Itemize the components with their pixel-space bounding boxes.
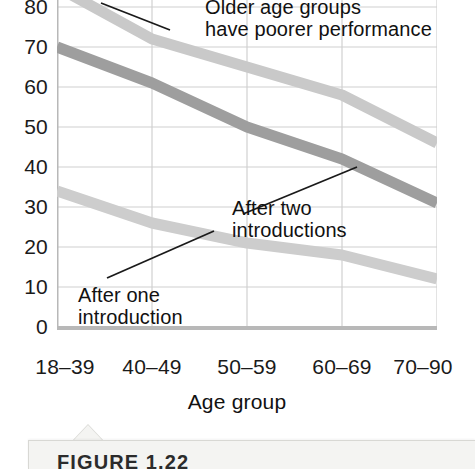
x-axis-tick-4: 70–90 — [393, 355, 452, 379]
annotation-after-two-introductions: After two introductions — [232, 197, 347, 242]
y-axis-tick-70: 70 — [24, 35, 48, 59]
y-axis-tick-50: 50 — [24, 115, 48, 139]
figure-caption-card: FIGURE 1.22 — [28, 440, 475, 469]
y-axis-tick-10: 10 — [24, 275, 48, 299]
y-axis-tick-0: 0 — [36, 315, 48, 339]
x-axis-title: Age group — [0, 390, 474, 414]
y-axis-tick-20: 20 — [24, 235, 48, 259]
x-axis-tick-2: 50–59 — [217, 355, 276, 379]
y-axis-tick-30: 30 — [24, 195, 48, 219]
y-axis-tick-40: 40 — [24, 155, 48, 179]
x-axis-tick-1: 40–49 — [122, 355, 181, 379]
page-seam — [0, 412, 474, 413]
y-axis-tick-80: 80 — [24, 0, 48, 19]
x-axis-tick-labels: 18–3940–4950–5960–6970–90 — [0, 355, 474, 383]
x-axis-tick-0: 18–39 — [35, 355, 94, 379]
annotation-after-one-introduction: After one introduction — [78, 284, 183, 329]
annotation-older-age-groups: Older age groups have poorer performance — [205, 0, 432, 41]
y-axis-tick-60: 60 — [24, 75, 48, 99]
x-axis-tick-3: 60–69 — [312, 355, 371, 379]
figure-caption-label: FIGURE 1.22 — [57, 451, 189, 469]
